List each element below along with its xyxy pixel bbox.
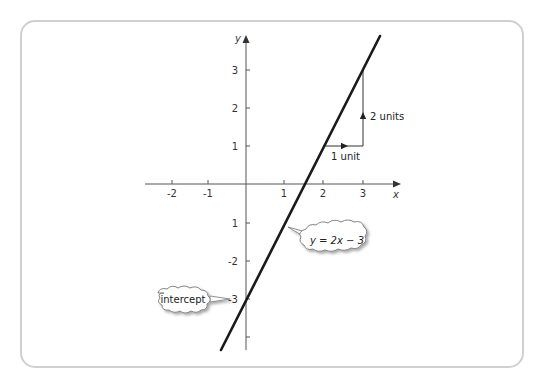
y-tick-label: -2 [228, 256, 238, 267]
run-label: 1 unit [331, 151, 360, 162]
y-tick-label: 2 [232, 103, 238, 114]
x-tick-label: 1 [281, 188, 287, 199]
figure-frame [21, 21, 523, 367]
equation-label: y = 2x − 3 [309, 235, 364, 246]
y-axis-label: y [234, 33, 242, 44]
y-tick-label: 1 [232, 218, 238, 229]
x-tick-label: -1 [203, 188, 213, 199]
x-tick-label: 2 [320, 188, 326, 199]
x-tick-label: 3 [360, 188, 366, 199]
intercept-label: intercept [161, 294, 206, 305]
y-tick-label: 3 [232, 65, 238, 76]
rise-label: 2 units [370, 111, 404, 122]
x-tick-label: -2 [167, 188, 177, 199]
figure: -2 -1 1 2 3 x 3 2 1 1 -2 -3 y [0, 0, 543, 380]
x-axis-label: x [392, 189, 399, 200]
y-tick-label: -3 [228, 294, 238, 305]
y-tick-label: 1 [232, 141, 238, 152]
graph-svg: -2 -1 1 2 3 x 3 2 1 1 -2 -3 y [0, 0, 543, 380]
